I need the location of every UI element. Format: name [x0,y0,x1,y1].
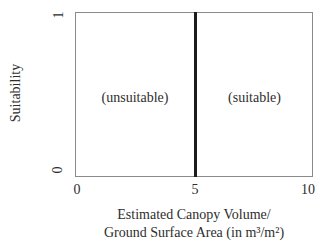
x-axis-title-line1: Estimated Canopy Volume/ [75,206,313,224]
x-axis-title: Estimated Canopy Volume/ Ground Surface … [75,206,313,242]
x-tick-5: 5 [192,182,199,198]
x-tick-0: 0 [74,182,81,198]
x-axis-title-line2: Ground Surface Area (in m³/m²) [75,224,313,242]
y-axis-title: Suitability [8,64,24,122]
suitability-chart: Suitability 1 0 (unsuitable) (suitable) … [0,0,332,245]
x-tick-10: 10 [301,182,315,198]
region-label-suitable: (suitable) [197,90,312,106]
region-label-unsuitable: (unsuitable) [76,90,194,106]
y-tick-0: 0 [50,167,66,174]
plot-area: (unsuitable) (suitable) [75,12,313,177]
y-tick-1: 1 [51,12,67,19]
